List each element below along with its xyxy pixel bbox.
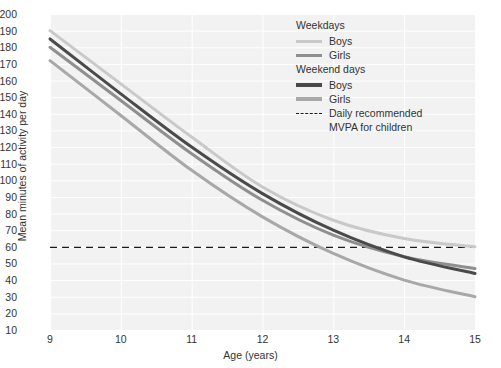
legend-item-recommended-mvpa[interactable]: Daily recommended <box>296 106 422 120</box>
y-tick-60: 60 <box>0 247 17 258</box>
y-tick-100: 100 <box>0 180 17 191</box>
legend-group-title-weekend-days: Weekend days <box>296 62 422 76</box>
legend-swatch-weekdays-girls-icon <box>296 54 322 57</box>
x-tick-11: 11 <box>172 333 212 345</box>
y-tick-90: 90 <box>0 197 17 208</box>
chart-legend: Weekdays Boys Girls Weekend days Boys Gi… <box>296 18 422 134</box>
legend-label-recommended-mvpa-line2: MVPA for children <box>296 120 422 134</box>
legend-label-weekend-boys: Boys <box>329 79 352 91</box>
y-tick-180: 180 <box>0 47 17 58</box>
legend-item-weekend-boys[interactable]: Boys <box>296 78 422 92</box>
x-tick-12: 12 <box>243 333 283 345</box>
x-tick-14: 14 <box>384 333 424 345</box>
legend-label-recommended-mvpa-line1: Daily recommended <box>329 107 422 119</box>
legend-swatch-weekend-boys-icon <box>296 83 322 87</box>
x-tick-13: 13 <box>313 333 353 345</box>
chart-figure: 2001901801701601501401301201101009080706… <box>0 0 501 368</box>
y-tick-170: 170 <box>0 64 17 75</box>
legend-swatch-weekend-girls-icon <box>296 97 322 101</box>
y-tick-40: 40 <box>0 280 17 291</box>
legend-item-weekdays-girls[interactable]: Girls <box>296 48 422 62</box>
x-tick-10: 10 <box>101 333 141 345</box>
y-tick-70: 70 <box>0 230 17 241</box>
y-tick-140: 140 <box>0 114 17 125</box>
y-tick-110: 110 <box>0 164 17 175</box>
y-tick-190: 190 <box>0 31 17 42</box>
legend-label-weekdays-girls: Girls <box>329 49 351 61</box>
y-tick-30: 30 <box>0 297 17 308</box>
y-tick-150: 150 <box>0 97 17 108</box>
legend-label-weekdays-boys: Boys <box>329 35 352 47</box>
legend-item-weekdays-boys[interactable]: Boys <box>296 34 422 48</box>
y-tick-130: 130 <box>0 130 17 141</box>
legend-group-title-weekdays: Weekdays <box>296 18 422 32</box>
y-tick-50: 50 <box>0 263 17 274</box>
y-tick-20: 20 <box>0 313 17 324</box>
y-axis-title: Mean minutes of activity per day <box>16 66 28 266</box>
x-tick-15: 15 <box>455 333 495 345</box>
y-tick-80: 80 <box>0 214 17 225</box>
legend-label-weekend-girls: Girls <box>329 93 351 105</box>
dashed-line-icon <box>296 113 322 114</box>
y-tick-120: 120 <box>0 147 17 158</box>
y-tick-200: 200 <box>0 14 17 25</box>
y-tick-160: 160 <box>0 81 17 92</box>
legend-item-weekend-girls[interactable]: Girls <box>296 92 422 106</box>
y-tick-10: 10 <box>0 330 17 341</box>
legend-swatch-weekdays-boys-icon <box>296 40 322 43</box>
x-tick-9: 9 <box>30 333 70 345</box>
x-axis-title: Age (years) <box>0 349 501 361</box>
